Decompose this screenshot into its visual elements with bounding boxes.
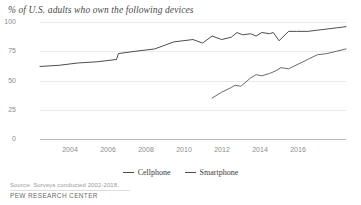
legend-swatch-smartphone [185, 172, 196, 174]
line-cellphone [40, 27, 346, 67]
chart-title: % of U.S. adults who own the following d… [8, 5, 194, 15]
chart-container: % of U.S. adults who own the following d… [0, 0, 361, 205]
source-note: Source: Surveys conducted 2002-2018. [10, 182, 119, 188]
x-tick-2014: 2014 [245, 146, 275, 153]
x-tick-2012: 2012 [207, 146, 237, 153]
series-lines [40, 22, 346, 139]
legend-label-cellphone: Cellphone [138, 168, 171, 177]
y-tick-100: 100 [0, 18, 16, 25]
footer-divider [10, 190, 130, 191]
brand-label: PEW RESEARCH CENTER [10, 192, 98, 199]
y-tick-0: 0 [0, 135, 16, 142]
plot-area [40, 22, 346, 139]
y-tick-75: 75 [0, 47, 16, 54]
y-tick-25: 25 [0, 106, 16, 113]
chart-legend: Cellphone Smartphone [0, 168, 361, 177]
x-tick-2010: 2010 [169, 146, 199, 153]
legend-label-smartphone: Smartphone [200, 168, 239, 177]
x-tick-2004: 2004 [55, 146, 85, 153]
y-tick-50: 50 [0, 77, 16, 84]
legend-item-cellphone[interactable]: Cellphone [123, 168, 171, 177]
legend-swatch-cellphone [123, 172, 134, 174]
x-axis-line [40, 139, 346, 140]
x-tick-2016: 2016 [283, 146, 313, 153]
legend-item-smartphone[interactable]: Smartphone [185, 168, 239, 177]
x-tick-2006: 2006 [93, 146, 123, 153]
line-smartphone [212, 49, 346, 98]
x-tick-2008: 2008 [131, 146, 161, 153]
